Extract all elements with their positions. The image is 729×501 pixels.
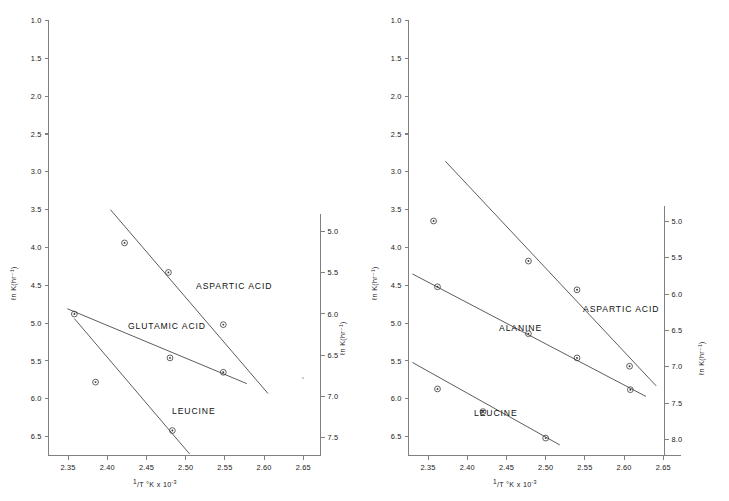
chart-panel-right: 1.01.52.02.53.03.54.04.55.05.56.06.5 5.0… — [364, 0, 729, 501]
y-tick-label: 1.5 — [31, 54, 42, 63]
marker-dot — [222, 324, 224, 326]
y-tick-label: 5.0 — [391, 319, 402, 328]
marker-dot — [629, 365, 631, 367]
y-tick-label-right: 6.0 — [672, 290, 683, 299]
x-axis-ticks: 2.352.402.452.502.552.602.65 — [421, 456, 671, 472]
marker-dot — [527, 333, 529, 335]
data-point-glutamic-acid — [220, 369, 226, 375]
x-axis-title-rest: /T °K x 10 — [137, 480, 172, 489]
marker-dot — [433, 220, 435, 222]
y-axis-title-right: ℓn K(hr⁻¹) — [697, 341, 706, 376]
data-point-leucine — [435, 386, 441, 392]
x-tick-label: 2.55 — [217, 463, 232, 472]
marker-dot — [629, 389, 631, 391]
y-tick-label: 4.0 — [31, 243, 42, 252]
y-tick-label-right: 6.0 — [328, 310, 339, 319]
x-tick-label: 2.50 — [178, 463, 193, 472]
y-tick-label-right: 8.0 — [672, 435, 683, 444]
y-axis-left-ticks: 1.01.52.02.53.03.54.04.55.05.56.06.5 — [391, 16, 409, 441]
y-tick-label: 1.0 — [391, 16, 402, 25]
axes-right — [409, 21, 681, 456]
x-tick-label: 2.35 — [421, 463, 436, 472]
x-tick-label: 2.50 — [538, 463, 553, 472]
data-point-aspartic-acid — [220, 322, 226, 328]
marker-dot — [171, 430, 173, 432]
axes-left — [49, 21, 321, 456]
y-tick-label: 2.0 — [31, 92, 42, 101]
x-axis-title-rest: /T °K x 10 — [497, 480, 532, 489]
marker-dot — [124, 242, 126, 244]
fit-lines — [67, 210, 268, 454]
chart-svg-right: 1.01.52.02.53.03.54.04.55.05.56.06.5 5.0… — [364, 0, 729, 501]
y-tick-label-right: 5.0 — [328, 227, 339, 236]
x-tick-label: 2.35 — [61, 463, 76, 472]
y-tick-label-right: 5.5 — [328, 268, 339, 277]
chart-svg-left: 1.01.52.02.53.03.54.04.55.05.56.06.5 5.0… — [0, 0, 365, 501]
data-point-aspartic-acid — [431, 218, 437, 224]
y-axis-right-ticks: 5.05.56.06.57.07.5 — [321, 227, 339, 442]
y-tick-label-right: 5.5 — [672, 253, 683, 262]
y-tick-label: 2.5 — [391, 130, 402, 139]
data-point-leucine — [93, 379, 99, 385]
x-tick-label: 2.65 — [296, 463, 311, 472]
y-tick-label: 1.5 — [391, 54, 402, 63]
y-tick-label: 3.5 — [31, 205, 42, 214]
y-tick-label: 5.5 — [31, 357, 42, 366]
x-axis-title: 1/T °K x 10-3 — [493, 478, 537, 489]
data-point-aspartic-acid — [627, 363, 633, 369]
x-tick-label: 2.45 — [139, 463, 154, 472]
y-tick-label: 6.5 — [391, 432, 402, 441]
marker-dot — [527, 260, 529, 262]
page-speck — [302, 377, 304, 379]
data-point-glutamic-acid — [167, 355, 173, 361]
y-axis-title-right: ℓn K(hr⁻¹) — [338, 321, 347, 356]
x-tick-label: 2.45 — [499, 463, 514, 472]
data-point-aspartic-acid — [526, 258, 532, 264]
axis-left-spine — [49, 21, 321, 456]
y-tick-label: 2.0 — [391, 92, 402, 101]
y-axis-title-left: ℓn K(hr⁻¹) — [370, 266, 379, 301]
y-tick-label: 4.5 — [31, 281, 42, 290]
series-label-aspartic-acid: ASPARTIC ACID — [583, 304, 659, 314]
series-group-left — [67, 210, 268, 454]
fit-line-aspartic-acid — [445, 161, 656, 386]
y-axis-title-left: ℓn K(hr⁻¹) — [9, 266, 18, 301]
y-tick-label: 1.0 — [31, 16, 42, 25]
data-point-alanine — [435, 284, 441, 290]
y-tick-label: 5.0 — [31, 319, 42, 328]
fit-line-alanine — [412, 274, 646, 397]
y-tick-label: 6.0 — [31, 394, 42, 403]
fit-line-aspartic-acid — [110, 210, 268, 394]
x-tick-label: 2.55 — [577, 463, 592, 472]
data-point-aspartic-acid — [574, 287, 580, 293]
series-label-alanine: ALANINE — [499, 323, 542, 333]
marker-dot — [169, 357, 171, 359]
y-tick-label: 3.0 — [31, 167, 42, 176]
y-tick-label-right: 7.5 — [672, 399, 683, 408]
marker-dot — [576, 357, 578, 359]
data-point-aspartic-acid — [166, 270, 172, 276]
y-tick-label-right: 7.5 — [328, 433, 339, 442]
marker-dot — [545, 437, 547, 439]
x-tick-label: 2.65 — [656, 463, 671, 472]
x-axis-ticks: 2.352.402.452.502.552.602.65 — [61, 456, 311, 472]
fit-line-leucine — [412, 362, 559, 444]
y-tick-label: 4.5 — [391, 281, 402, 290]
series-label-leucine: LEUCINE — [474, 408, 518, 418]
data-points — [71, 240, 226, 433]
y-tick-label: 3.0 — [391, 167, 402, 176]
y-tick-label: 5.5 — [391, 357, 402, 366]
x-tick-label: 2.40 — [460, 463, 475, 472]
y-tick-label-right: 6.5 — [672, 326, 683, 335]
series-label-leucine: LEUCINE — [172, 406, 216, 416]
figure-arrhenius-plots: 1.01.52.02.53.03.54.04.55.05.56.06.5 5.0… — [0, 0, 729, 501]
data-point-aspartic-acid — [122, 240, 128, 246]
marker-dot — [73, 313, 75, 315]
axis-left-spine — [409, 21, 681, 456]
y-tick-label: 4.0 — [391, 243, 402, 252]
chart-panel-left: 1.01.52.02.53.03.54.04.55.05.56.06.5 5.0… — [0, 0, 365, 501]
x-axis-title-exponent: -3 — [531, 479, 536, 485]
y-tick-label-right: 7.0 — [328, 392, 339, 401]
x-tick-label: 2.60 — [616, 463, 631, 472]
y-axis-left-ticks: 1.01.52.02.53.03.54.04.55.05.56.06.5 — [31, 16, 49, 441]
